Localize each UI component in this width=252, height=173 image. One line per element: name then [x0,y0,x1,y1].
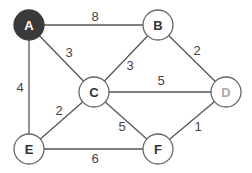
node-label-f: F [154,142,162,157]
weighted-graph-diagram: 8 3 4 3 2 5 2 5 1 6 A B C D E [0,0,252,173]
weight-c-e: 2 [55,103,62,118]
weight-e-f: 6 [91,151,98,166]
weight-c-f: 5 [118,119,125,134]
node-label-d: D [221,85,230,100]
weight-a-e: 4 [16,80,23,95]
node-label-c: C [89,85,99,100]
node-label-a: A [24,18,34,33]
weight-a-c: 3 [65,45,72,60]
nodes: A B C D E F [14,10,241,164]
node-a: A [14,10,44,40]
weight-d-f: 1 [194,119,201,134]
node-label-b: B [153,18,162,33]
edge-weights: 8 3 4 3 2 5 2 5 1 6 [16,9,201,166]
weight-b-d: 2 [193,43,200,58]
node-f: F [143,134,173,164]
node-e: E [14,134,44,164]
weight-b-c: 3 [126,58,133,73]
node-b: B [143,10,173,40]
node-label-e: E [25,142,34,157]
weight-c-d: 5 [157,73,164,88]
weight-a-b: 8 [91,9,98,24]
node-d: D [211,77,241,107]
node-c: C [79,77,109,107]
